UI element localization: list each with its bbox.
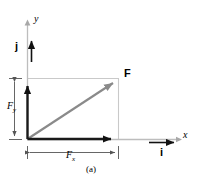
- force-resultant-label: F: [124, 68, 131, 79]
- fy-subscript: y: [13, 106, 16, 114]
- figure-caption: (a): [86, 165, 96, 174]
- force-resultant-vector: [28, 83, 114, 139]
- vector-components-figure: y x j i F Fy Fx (a): [0, 0, 198, 181]
- j-unit-vector-label: j: [15, 41, 18, 52]
- force-resultant-shaft: [28, 83, 114, 139]
- x-axis-label: x: [183, 130, 187, 140]
- x-axis-arrowhead: [176, 137, 182, 142]
- coordinate-axes: [25, 20, 182, 143]
- force-y-component-label: Fy: [7, 101, 16, 114]
- fx-subscript: x: [72, 155, 75, 163]
- figure-canvas: [0, 0, 198, 181]
- force-x-component-label: Fx: [66, 150, 75, 163]
- i-unit-vector-label: i: [160, 147, 163, 158]
- y-axis-label: y: [34, 14, 38, 24]
- y-axis-arrowhead: [25, 20, 31, 26]
